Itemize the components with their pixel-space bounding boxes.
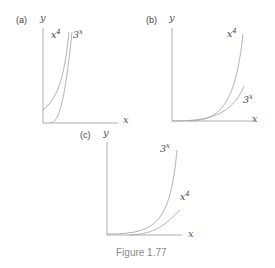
curve-3x [107,150,177,234]
panel-b-plot [137,0,275,130]
curve-3x [43,32,69,110]
curve-x4 [189,34,243,121]
panel-b: (b) y x x4 3x [137,0,275,130]
panel-a-plot [0,0,137,130]
panel-c: (c) y x 3x x4 [60,130,210,245]
curve-3x [172,86,244,121]
figure-caption: Figure 1.77 [116,247,167,258]
panel-a: (a) y x x4 3x [0,0,137,130]
curve-x4 [50,32,72,123]
panel-c-plot [60,130,210,245]
